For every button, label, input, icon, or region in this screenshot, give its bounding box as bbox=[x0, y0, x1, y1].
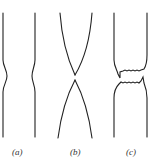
panel-a-right-edge bbox=[32, 13, 35, 137]
panel-a-label: (a) bbox=[12, 147, 23, 157]
panel-b-upper-right bbox=[75, 13, 92, 75]
panel-b-lower-left bbox=[58, 80, 75, 138]
panel-b-lower-right bbox=[75, 80, 92, 138]
panel-a-left-edge bbox=[3, 13, 7, 137]
panel-c-lower-piece bbox=[114, 77, 147, 137]
panel-b-upper-left bbox=[60, 13, 75, 75]
panel-b-label: (b) bbox=[70, 147, 81, 157]
panel-c-upper-piece bbox=[114, 13, 147, 78]
fracture-diagram bbox=[0, 0, 160, 163]
panel-c-label: (c) bbox=[126, 147, 136, 157]
